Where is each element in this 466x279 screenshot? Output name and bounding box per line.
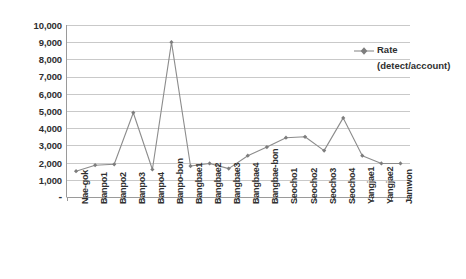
- x-axis-label: Banpo4: [156, 172, 166, 204]
- x-axis-label: Banpo-bon: [175, 158, 185, 204]
- x-axis-label: Jamwon: [404, 169, 414, 204]
- plot-area: [0, 0, 466, 279]
- data-point: [74, 169, 78, 173]
- data-point: [379, 161, 383, 165]
- data-point: [208, 161, 212, 165]
- data-point: [398, 161, 402, 165]
- data-point: [284, 136, 288, 140]
- x-axis-label: Banpo1: [99, 172, 109, 204]
- x-axis-label: Yangjae2: [385, 167, 395, 204]
- x-axis-label: Bangbae2: [213, 163, 223, 204]
- series-markers-rate: [74, 40, 403, 173]
- x-axis-label: Nae-gok: [80, 170, 90, 204]
- x-axis-label: Seocho2: [309, 168, 319, 204]
- x-axis-label: Banpo3: [137, 172, 147, 204]
- series-line-rate: [76, 42, 401, 171]
- legend-label-rate: Rate: [377, 44, 398, 55]
- legend-label-unit: (detect/account): [377, 60, 450, 71]
- x-axis-label: Bangbae1: [194, 163, 204, 204]
- x-axis-label: Seocho4: [347, 168, 357, 204]
- data-point: [150, 167, 154, 171]
- data-point: [188, 164, 192, 168]
- data-point: [169, 40, 173, 44]
- x-axis-label: Bangbae3: [232, 163, 242, 204]
- x-axis-label: Seocho1: [289, 168, 299, 204]
- data-point: [360, 154, 364, 158]
- line-chart: 10,000 9,000 8,000 7,000 6,000 5,000 4,0…: [0, 0, 466, 279]
- x-axis-label: Seocho3: [328, 168, 338, 204]
- x-axis-label: Yangjae1: [366, 167, 376, 204]
- x-axis-label: Banpo2: [118, 172, 128, 204]
- x-axis-label: Bangbae-bon: [270, 149, 280, 204]
- data-point: [112, 162, 116, 166]
- x-axis-label: Bangbae4: [251, 163, 261, 204]
